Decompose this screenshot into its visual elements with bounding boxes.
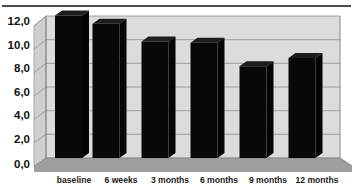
bar-6-weeks[interactable]: [93, 19, 127, 158]
xtick-label-baseline: baseline: [57, 175, 92, 185]
bar-9-months[interactable]: [240, 61, 274, 158]
ytick-label-8: 8,0: [14, 62, 30, 74]
bar-chart-figure: 12,0 10,0 8,0 6,0 4,0 2,0 0,0 baseline 6…: [0, 0, 353, 195]
xtick-label-6-weeks: 6 weeks: [105, 175, 138, 185]
bar-baseline[interactable]: [55, 10, 89, 158]
bar-6-months[interactable]: [191, 38, 225, 158]
chart-canvas: 12,0 10,0 8,0 6,0 4,0 2,0 0,0 baseline 6…: [0, 0, 353, 195]
bar-3-months[interactable]: [142, 37, 176, 159]
ytick-label-12: 12,0: [8, 15, 30, 27]
xtick-label-9-months: 9 months: [249, 175, 287, 185]
xtick-label-3-months: 3 months: [151, 175, 189, 185]
bar-12-months[interactable]: [289, 53, 323, 158]
plot-area-floor: [34, 158, 352, 172]
y-axis-tick-labels: 12,0 10,0 8,0 6,0 4,0 2,0 0,0: [8, 15, 30, 170]
ytick-label-0: 0,0: [14, 158, 30, 170]
ytick-label-4: 4,0: [14, 109, 30, 121]
xtick-label-6-months: 6 months: [200, 175, 238, 185]
ytick-label-2: 2,0: [14, 133, 30, 145]
ytick-label-6: 6,0: [14, 86, 30, 98]
x-axis-tick-labels: baseline 6 weeks 3 months 6 months 9 mon…: [57, 175, 339, 185]
ytick-label-10: 10,0: [8, 39, 30, 51]
xtick-label-12-months: 12 months: [296, 175, 339, 185]
